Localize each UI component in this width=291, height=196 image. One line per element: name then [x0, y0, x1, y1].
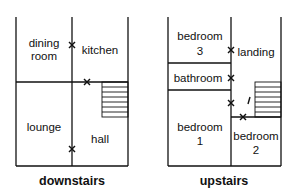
room-label-bedroom3-number: 3 [197, 45, 203, 57]
room-label-bedroom2-number: 2 [253, 144, 259, 156]
room-label-bathroom: bathroom [174, 72, 223, 84]
room-label-bedroom1: bedroom [177, 121, 222, 133]
room-label-dining: dining [29, 37, 60, 49]
upstairs-plan: bedroom 3 landing bathroom bedroom 1 bed… [168, 17, 281, 188]
caption-downstairs: downstairs [39, 174, 105, 188]
room-label-lounge: lounge [27, 121, 62, 133]
stairs-icon [255, 82, 281, 117]
annotation-mark [248, 97, 250, 104]
room-label-kitchen: kitchen [82, 44, 118, 56]
downstairs-plan: dining room kitchen lounge hall downstai… [16, 17, 128, 188]
room-label-hall: hall [91, 133, 109, 145]
room-label-landing: landing [237, 46, 274, 58]
room-label-dining-line2: room [31, 50, 57, 62]
room-label-bedroom1-number: 1 [197, 135, 203, 147]
stairs-icon [102, 82, 128, 117]
floor-plan-diagram: dining room kitchen lounge hall downstai… [0, 0, 291, 196]
room-label-bedroom3: bedroom [177, 30, 222, 42]
room-label-bedroom2: bedroom [233, 130, 278, 142]
caption-upstairs: upstairs [200, 174, 249, 188]
